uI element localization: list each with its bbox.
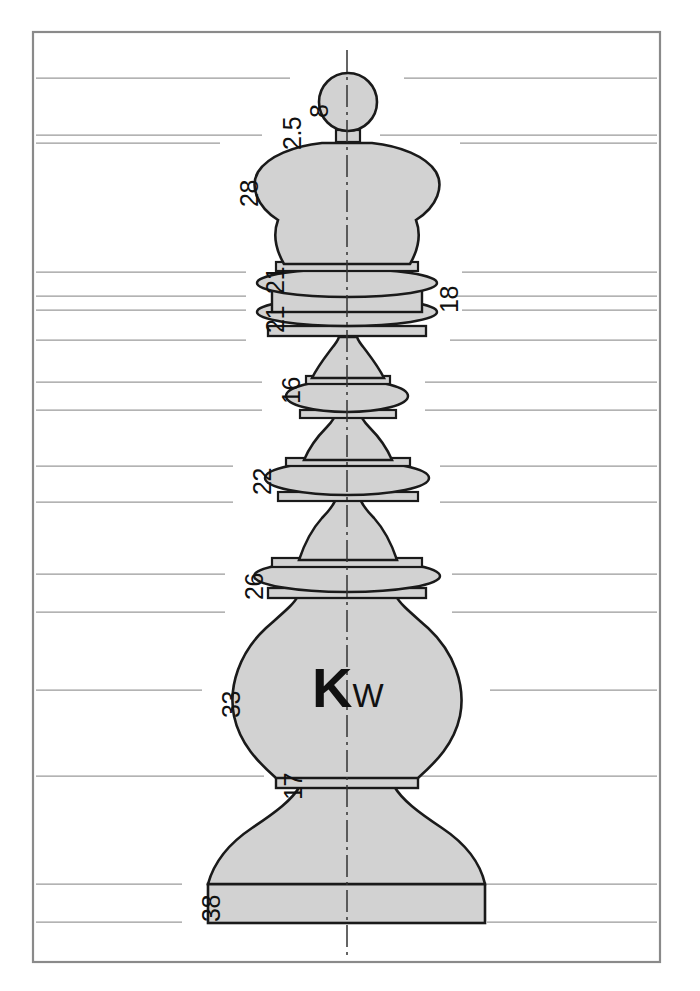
upper-waist — [312, 337, 384, 378]
finial-sphere — [319, 73, 377, 131]
part-code-subscript: W — [352, 677, 383, 714]
lower-waist — [299, 492, 397, 560]
technical-drawing-canvas — [0, 0, 700, 991]
dimension-value: 28 — [237, 180, 262, 207]
part-code-main: K — [312, 656, 352, 719]
dimension-value: 22 — [250, 468, 275, 495]
drawing-sheet: 82.528212118162226331738 KW — [0, 0, 700, 991]
dimension-value: 21 — [263, 267, 288, 294]
dimension-value: 38 — [199, 895, 224, 922]
dimension-value: 17 — [281, 773, 306, 800]
dimension-value: 33 — [219, 691, 244, 718]
dimension-value: 18 — [437, 286, 462, 313]
dimension-value: 26 — [242, 573, 267, 600]
dimension-value: 21 — [263, 306, 288, 333]
dimension-value: 16 — [279, 377, 304, 404]
dimension-value: 2.5 — [280, 117, 305, 150]
dimension-value: 8 — [307, 105, 332, 118]
part-designation-label: KW — [312, 660, 384, 716]
